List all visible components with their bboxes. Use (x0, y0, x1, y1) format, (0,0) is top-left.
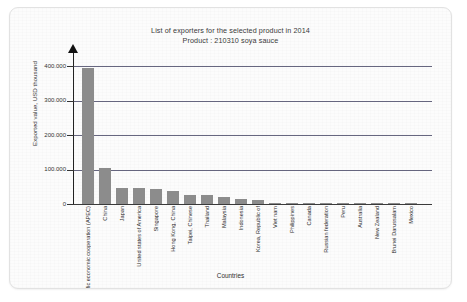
bar[interactable] (167, 191, 179, 204)
y-axis-tick (67, 66, 74, 67)
y-axis-tick (67, 135, 74, 136)
y-axis-tick-label: 200.000 (22, 132, 66, 138)
bar[interactable] (371, 203, 383, 204)
bar[interactable] (133, 188, 145, 204)
bar[interactable] (286, 203, 298, 204)
x-axis-tick-label: China (102, 206, 109, 221)
bar[interactable] (82, 68, 94, 204)
y-axis-tick-label: 400.000 (22, 63, 66, 69)
x-axis-tick-label: Thailand (204, 206, 211, 227)
chart-title-block: List of exporters for the selected produ… (10, 26, 451, 45)
x-axis-line (73, 204, 432, 205)
bar[interactable] (388, 203, 400, 204)
x-axis-tick-label: Peru (340, 206, 347, 218)
x-axis-tick-label: New Zealand (374, 206, 381, 239)
bar[interactable] (405, 203, 417, 204)
bar[interactable] (218, 197, 230, 204)
bar[interactable] (150, 189, 162, 204)
y-axis-tick (67, 170, 74, 171)
x-axis-tick-label: Hong Kong, China (170, 206, 177, 252)
bar[interactable] (235, 199, 247, 205)
bar[interactable] (252, 200, 264, 204)
chart-title: List of exporters for the selected produ… (10, 26, 451, 36)
y-axis-tick-label: 100.000 (22, 166, 66, 172)
y-axis-tick-label: 300.000 (22, 97, 66, 103)
bar-series (74, 56, 432, 204)
screenshot-page: List of exporters for the selected produ… (0, 0, 467, 302)
x-axis-title: Countries (10, 272, 451, 279)
x-axis-tick-label: Russian federation (323, 206, 330, 253)
x-axis-tick-label: Singapore (153, 206, 160, 232)
x-axis-tick-label: Viet nam (272, 206, 279, 228)
y-axis-tick (67, 101, 74, 102)
bar[interactable] (337, 203, 349, 204)
bar[interactable] (99, 168, 111, 204)
y-axis-tick (67, 204, 74, 205)
bar[interactable] (269, 203, 281, 204)
x-axis-tick-label: Indonesia (238, 206, 245, 230)
chart-card: List of exporters for the selected produ… (9, 7, 452, 289)
x-axis-tick-label: Japan (119, 206, 126, 221)
bar[interactable] (184, 195, 196, 204)
x-axis-tick-labels: Asia-pacific economic cooperation (APEC)… (74, 206, 432, 268)
x-axis-tick-label: Malaysia (221, 206, 228, 228)
y-axis-arrow-icon (68, 44, 78, 53)
y-axis-tick-label: 0 (22, 201, 66, 207)
bar[interactable] (354, 203, 366, 204)
x-axis-tick-label: Canada (306, 206, 313, 226)
x-axis-tick-label: Korea, Republic of (255, 206, 262, 252)
bar[interactable] (116, 188, 128, 204)
y-axis-tick-labels: 0100.000200.000300.000400.000 (18, 8, 66, 289)
bar[interactable] (303, 203, 315, 204)
bar[interactable] (320, 203, 332, 204)
x-axis-tick-label: Philippines (289, 206, 296, 233)
bar[interactable] (201, 195, 213, 204)
x-axis-tick-label: United states of America (136, 206, 143, 267)
x-axis-tick-label: Australia (357, 206, 364, 228)
x-axis-tick-label: Taipei, Chinese (187, 206, 194, 244)
x-axis-tick-label: Brunei Darussalam (391, 206, 398, 254)
x-axis-tick-label: Mexico (408, 206, 415, 224)
